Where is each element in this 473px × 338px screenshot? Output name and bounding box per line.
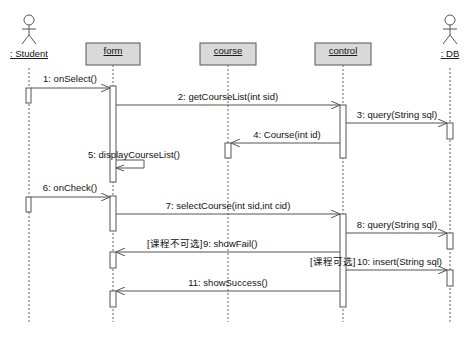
message-3-label: 3: query(String sql) <box>357 109 437 120</box>
activation-form-1 <box>110 86 116 182</box>
message-9-label: 9: showFail() <box>203 238 257 249</box>
activation-student-2 <box>26 197 31 212</box>
message-10-guard: [课程可选] <box>310 256 355 267</box>
actor-db: : DB <box>441 15 459 59</box>
sequence-diagram: : Student : DB form course control <box>0 0 473 338</box>
actor-student: : Student <box>10 15 48 59</box>
message-11-label: 11: showSuccess() <box>188 277 268 288</box>
message-5-label: 5: displayCourseList() <box>88 149 180 160</box>
activation-form-4 <box>110 291 116 307</box>
message-8-label: 8: query(String sql) <box>357 219 437 230</box>
activation-form-3 <box>110 252 116 268</box>
activation-db-2 <box>447 233 453 249</box>
participant-label: course <box>214 45 243 56</box>
participant-label: control <box>329 45 358 56</box>
activation-db-1 <box>447 123 453 139</box>
message-10-label: 10: insert(String sql) <box>357 256 442 267</box>
object-form: form <box>86 43 140 65</box>
object-course: course <box>200 43 256 65</box>
message-6-label: 6: onCheck() <box>43 182 97 193</box>
activation-form-2 <box>110 196 116 231</box>
message-7-label: 7: selectCourse(int sid,int cid) <box>166 200 291 211</box>
activation-course-1 <box>225 143 231 158</box>
participant-label: : Student <box>10 48 48 59</box>
activation-db-3 <box>447 270 453 286</box>
message-2-label: 2: getCourseList(int sid) <box>178 91 278 102</box>
stick-figure-icon <box>443 15 457 44</box>
stick-figure-icon <box>22 15 36 44</box>
participant-label: : DB <box>441 48 459 59</box>
message-1-label: 1: onSelect() <box>43 73 97 84</box>
activation-control-1 <box>340 105 346 158</box>
object-control: control <box>315 43 371 65</box>
activation-student-1 <box>26 88 31 103</box>
participant-label: form <box>104 45 123 56</box>
message-4-label: 4: Course(int id) <box>253 129 321 140</box>
message-9-guard: [课程不可选] <box>147 238 202 249</box>
